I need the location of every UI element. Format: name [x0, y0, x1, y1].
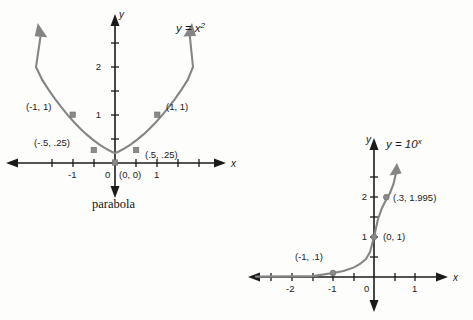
exponential-equation-base: y = 10 [385, 138, 418, 150]
parabola-point-0.5-0.25 [133, 147, 138, 152]
exponential-xtick-label-1: 1 [412, 283, 417, 294]
parabola-label--1-1: (-1, 1) [26, 101, 51, 112]
parabola-ytick-label-1: 1 [96, 109, 101, 120]
exponential-x-axis-label: x [452, 272, 459, 283]
math-figure: (-1, 1) (-.5, .25) (0, 0) (.5, .25) (1, … [0, 0, 473, 320]
parabola-label-0-0: (0, 0) [119, 169, 141, 180]
exponential-origin-label: 0 [364, 283, 369, 294]
exponential-point-0-1 [371, 234, 377, 240]
exponential-label-0.3-1.995: (.3, 1.995) [393, 192, 436, 203]
parabola-xtick-label-1: 1 [154, 169, 159, 180]
parabola-point--1-1 [70, 112, 75, 117]
parabola-caption: parabola [92, 197, 135, 211]
parabola-origin-label: 0 [105, 169, 110, 180]
parabola-right-branch-tail [188, 33, 193, 80]
exponential-plot: (-1, .1) (0, 1) (.3, 1.995) -2 -1 1 0 1 … [248, 134, 459, 312]
parabola-label-1-1: (1, 1) [166, 101, 188, 112]
parabola-label--0.5-0.25: (-.5, .25) [34, 137, 70, 148]
exponential-ytick-label-1: 1 [362, 231, 367, 242]
exponential-equation-exponent: x [417, 137, 423, 146]
parabola-left-branch-tail [36, 33, 42, 80]
exponential-curve-arrow [390, 163, 402, 176]
parabola-label-0.5-0.25: (.5, .25) [145, 149, 178, 160]
exponential-label--1-0.1: (-1, .1) [295, 251, 323, 262]
parabola-plot: (-1, 1) (-.5, .25) (0, 0) (.5, .25) (1, … [6, 9, 237, 211]
exponential-xtick-label--1: -1 [328, 283, 336, 294]
exponential-curve-tail [390, 173, 396, 193]
parabola-y-axis-label: y [118, 9, 125, 20]
exponential-curve [256, 193, 390, 277]
parabola-point--0.5-0.25 [91, 147, 96, 152]
parabola-equation-label: y = x2 [175, 21, 206, 34]
parabola-x-axis-label: x [230, 158, 237, 169]
parabola-x-axis-arrow-right [214, 159, 226, 168]
parabola-equation-exponent: 2 [200, 21, 206, 30]
parabola-point-1-1 [155, 112, 160, 117]
parabola-x-axis-arrow-left [6, 159, 18, 168]
exponential-label-0-1: (0, 1) [383, 231, 405, 242]
exponential-y-axis-arrow-bottom [370, 300, 379, 312]
parabola-ytick-label-2: 2 [96, 61, 101, 72]
exponential-equation-label: y = 10x [385, 137, 423, 150]
exponential-y-axis-label: y [365, 134, 372, 145]
exponential-point-0.3-1.995 [383, 194, 389, 200]
exponential-xtick-label--2: -2 [286, 283, 294, 294]
figure-root: (-1, 1) (-.5, .25) (0, 0) (.5, .25) (1, … [0, 0, 473, 320]
exponential-x-axis-arrow-right [436, 273, 448, 282]
parabola-equation-base: y = x [175, 22, 202, 34]
parabola-xtick-label--1: -1 [68, 169, 76, 180]
exponential-ytick-label-2: 2 [362, 191, 367, 202]
parabola-point-0-0 [112, 160, 117, 165]
exponential-point--1-0.1 [330, 270, 336, 276]
